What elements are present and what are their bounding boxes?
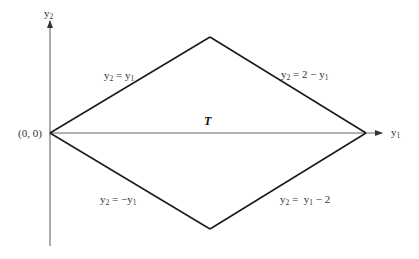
eq-sign: = <box>109 193 121 205</box>
eq-sign: = <box>113 69 125 81</box>
diagram-svg <box>0 0 419 259</box>
edge-upper-right <box>210 37 366 133</box>
y1-axis-label-sub: 1 <box>397 131 401 140</box>
eq-rhs-sub: 1 <box>130 74 134 83</box>
equation-lower-left: y2 = −y1 <box>100 193 136 205</box>
edge-lower-left <box>50 133 210 229</box>
eq-rhs-suffix: − 2 <box>313 193 330 205</box>
y2-axis-label: y2 <box>44 7 53 19</box>
diagram-canvas: y2 y1 (0, 0) T y2 = y1 y2 = 2 − y1 y2 = … <box>0 0 419 259</box>
eq-rhs-sub: 1 <box>133 198 137 207</box>
eq-sign: = <box>290 68 302 80</box>
region-label: T <box>204 115 211 127</box>
equation-upper-left: y2 = y1 <box>104 69 134 81</box>
eq-rhs-sub: 1 <box>325 73 329 82</box>
equation-lower-right: y2 = y1 − 2 <box>280 193 330 205</box>
edge-lower-right <box>210 133 366 229</box>
edge-upper-left <box>50 37 210 133</box>
y2-axis-label-sub: 2 <box>50 12 54 21</box>
y1-axis-label: y1 <box>391 126 400 138</box>
eq-sign: = <box>289 193 303 205</box>
equation-upper-right: y2 = 2 − y1 <box>281 68 328 80</box>
origin-label: (0, 0) <box>18 127 42 139</box>
eq-rhs-prefix: 2 − <box>302 68 319 80</box>
